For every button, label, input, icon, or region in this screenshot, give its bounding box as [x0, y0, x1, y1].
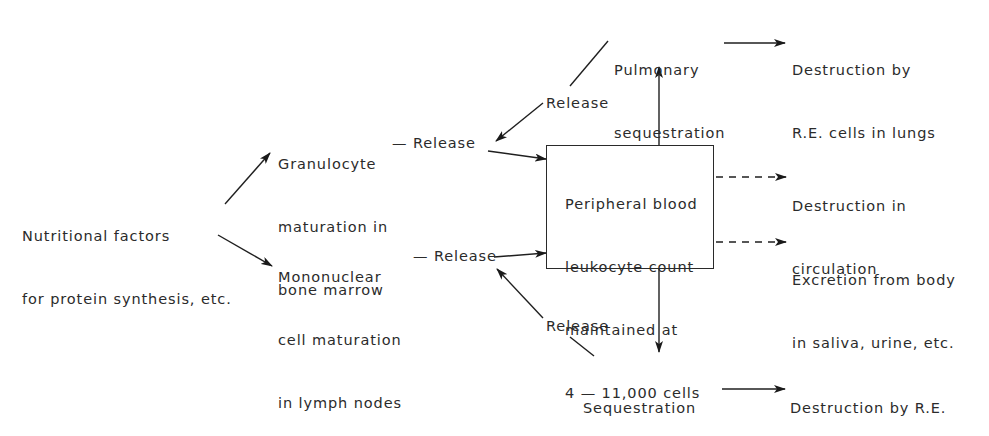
circulation-destruction-line: Destruction in	[792, 196, 907, 217]
central-box-line: Peripheral blood	[565, 194, 700, 215]
central-box-line: leukocyte count	[565, 257, 700, 278]
arrow-source-to-granulocyte	[225, 153, 270, 204]
release-bottom-label: Release	[546, 316, 609, 337]
pulmonary-line: Pulmonary	[614, 60, 725, 81]
pulmonary-line: sequestration	[614, 123, 725, 144]
line-pulmonary-to-release	[570, 41, 608, 86]
excretion-node: Excretion from body in saliva, urine, et…	[792, 228, 956, 375]
mononuclear-release-label: — Release	[413, 246, 497, 267]
release-top-label: Release	[546, 93, 609, 114]
mononuclear-node: Mononuclear cell maturation in lymph nod…	[278, 225, 402, 436]
excretion-line: in saliva, urine, etc.	[792, 333, 956, 354]
granulocyte-release-label: — Release	[392, 133, 476, 154]
arrow-mononuclear-release-to-box	[494, 253, 546, 257]
mononuclear-line: Mononuclear	[278, 267, 402, 288]
lymph-sequestration-line: Sequestration	[583, 398, 718, 419]
granulocyte-line: Granulocyte	[278, 154, 388, 175]
lung-destruction-node: Destruction by R.E. cells in lungs	[792, 18, 936, 165]
source-line: for protein synthesis, etc.	[22, 289, 232, 310]
pulmonary-node: Pulmonary sequestration	[614, 18, 725, 165]
lymph-destruction-node: Destruction by R.E. cells in lymph nodes…	[790, 356, 956, 436]
mononuclear-line: cell maturation	[278, 330, 402, 351]
lung-destruction-line: Destruction by	[792, 60, 936, 81]
lymph-sequestration-node: Sequestration in lymph nodes , spleen, e…	[583, 356, 718, 436]
lung-destruction-line: R.E. cells in lungs	[792, 123, 936, 144]
source-node: Nutritional factors for protein synthesi…	[22, 184, 232, 331]
source-line: Nutritional factors	[22, 226, 232, 247]
arrow-release-to-granulocyte	[496, 103, 543, 141]
arrow-release-to-mononuclear	[497, 269, 543, 318]
excretion-line: Excretion from body	[792, 270, 956, 291]
mononuclear-line: in lymph nodes	[278, 393, 402, 414]
arrow-granulocyte-release-to-box	[488, 151, 546, 159]
lymph-destruction-line: Destruction by R.E.	[790, 398, 956, 419]
